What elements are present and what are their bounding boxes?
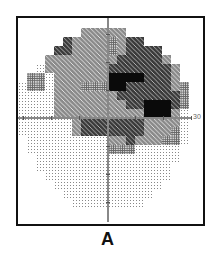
field-cell <box>27 136 36 145</box>
field-cell <box>135 55 144 64</box>
field-cell <box>90 118 99 127</box>
field-cell <box>45 136 54 145</box>
field-cell <box>72 64 81 73</box>
field-cell <box>126 163 135 172</box>
field-cell <box>36 154 45 163</box>
field-cell <box>135 64 144 73</box>
field-cell <box>81 118 90 127</box>
field-cell <box>72 136 81 145</box>
field-cell <box>90 91 99 100</box>
field-cell <box>153 172 162 181</box>
field-cell <box>63 181 72 190</box>
field-cell <box>171 73 180 82</box>
field-cell <box>108 127 117 136</box>
field-cell <box>171 91 180 100</box>
field-cell <box>54 82 63 91</box>
tick-mark <box>106 62 110 63</box>
field-cell <box>90 163 99 172</box>
field-cell <box>81 145 90 154</box>
field-cell <box>45 172 54 181</box>
field-cell <box>117 118 126 127</box>
field-cell <box>45 145 54 154</box>
field-cell <box>135 37 144 46</box>
field-cell <box>171 154 180 163</box>
field-cell <box>54 163 63 172</box>
field-cell <box>144 172 153 181</box>
field-cell <box>45 55 54 64</box>
field-cell <box>72 145 81 154</box>
field-cell <box>153 91 162 100</box>
field-cell <box>81 154 90 163</box>
field-cell <box>108 190 117 199</box>
field-cell <box>126 37 135 46</box>
field-cell <box>135 199 144 208</box>
field-cell <box>171 145 180 154</box>
field-cell <box>180 136 189 145</box>
field-cell <box>171 118 180 127</box>
field-cell <box>162 145 171 154</box>
field-cell <box>72 172 81 181</box>
tick-mark <box>106 90 110 91</box>
field-cell <box>45 127 54 136</box>
field-cell <box>90 73 99 82</box>
field-cell <box>63 127 72 136</box>
field-cell <box>144 55 153 64</box>
field-cell <box>108 163 117 172</box>
field-cell <box>144 190 153 199</box>
tick-mark <box>135 116 136 120</box>
field-cell <box>81 37 90 46</box>
field-cell <box>126 154 135 163</box>
field-cell <box>27 118 36 127</box>
field-cell <box>153 127 162 136</box>
field-cell <box>27 91 36 100</box>
panel-label: A <box>0 229 215 250</box>
field-cell <box>81 55 90 64</box>
field-cell <box>63 82 72 91</box>
field-cell <box>171 100 180 109</box>
field-cell <box>135 73 144 82</box>
field-cell <box>117 136 126 145</box>
tick-mark <box>106 174 110 175</box>
field-cell <box>81 100 90 109</box>
field-cell <box>180 118 189 127</box>
field-cell <box>72 37 81 46</box>
field-cell <box>54 100 63 109</box>
field-cell <box>153 55 162 64</box>
field-cell <box>135 118 144 127</box>
field-cell <box>117 199 126 208</box>
field-cell <box>54 145 63 154</box>
field-cell <box>90 100 99 109</box>
field-cell <box>153 100 162 109</box>
field-cell <box>171 136 180 145</box>
field-cell <box>153 136 162 145</box>
field-cell <box>27 127 36 136</box>
field-cell <box>90 154 99 163</box>
field-cell <box>81 181 90 190</box>
field-cell <box>36 145 45 154</box>
tick-mark <box>23 116 24 120</box>
field-cell <box>81 136 90 145</box>
field-cell <box>126 64 135 73</box>
field-cell <box>162 136 171 145</box>
field-cell <box>135 181 144 190</box>
field-cell <box>63 91 72 100</box>
field-cell <box>135 127 144 136</box>
field-cell <box>54 118 63 127</box>
field-cell <box>108 73 117 82</box>
field-cell <box>90 127 99 136</box>
field-cell <box>117 73 126 82</box>
field-cell <box>126 46 135 55</box>
field-cell <box>144 127 153 136</box>
field-cell <box>153 64 162 73</box>
field-cell <box>54 154 63 163</box>
field-cell <box>72 82 81 91</box>
field-cell <box>108 91 117 100</box>
field-cell <box>81 163 90 172</box>
field-cell <box>63 190 72 199</box>
field-cell <box>63 154 72 163</box>
field-cell <box>81 127 90 136</box>
field-cell <box>144 100 153 109</box>
field-cell <box>135 136 144 145</box>
field-cell <box>126 100 135 109</box>
field-cell <box>27 145 36 154</box>
